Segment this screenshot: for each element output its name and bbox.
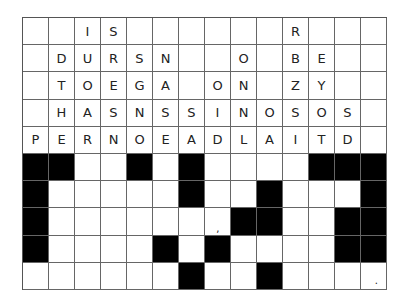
letter-cell	[179, 18, 205, 45]
cell-letter: D	[56, 51, 66, 66]
answer-cell[interactable]	[283, 263, 309, 290]
letter-cell: R	[101, 45, 127, 72]
answer-cell[interactable]	[283, 154, 309, 181]
answer-cell[interactable]	[283, 208, 309, 235]
answer-cell[interactable]	[49, 263, 75, 290]
answer-cell[interactable]	[205, 154, 231, 181]
answer-cell[interactable]	[231, 181, 257, 208]
letter-cell	[205, 45, 231, 72]
letter-cell: B	[283, 45, 309, 72]
cell-letter: D	[342, 132, 352, 147]
answer-cell[interactable]	[75, 236, 101, 263]
answer-cell[interactable]	[205, 181, 231, 208]
answer-cell[interactable]	[127, 236, 153, 263]
cell-letter: A	[265, 132, 274, 147]
letter-cell	[179, 45, 205, 72]
answer-cell[interactable]	[153, 154, 179, 181]
answer-cell[interactable]	[283, 236, 309, 263]
letter-cell: T	[309, 127, 335, 154]
answer-cell[interactable]	[49, 181, 75, 208]
answer-cell[interactable]	[127, 181, 153, 208]
cell-letter: O	[134, 132, 144, 147]
cell-letter: N	[135, 105, 145, 120]
letter-cell	[179, 72, 205, 99]
cell-letter: E	[317, 51, 325, 66]
blocked-cell	[231, 208, 257, 235]
letter-cell: O	[205, 72, 231, 99]
cell-letter: R	[109, 51, 118, 66]
cell-letter: S	[291, 105, 299, 120]
letter-cell: S	[101, 100, 127, 127]
cell-letter: A	[187, 132, 196, 147]
answer-cell[interactable]	[101, 263, 127, 290]
answer-cell[interactable]	[101, 236, 127, 263]
answer-cell[interactable]	[153, 263, 179, 290]
answer-cell[interactable]	[309, 263, 335, 290]
blocked-cell	[179, 154, 205, 181]
answer-cell[interactable]	[309, 181, 335, 208]
answer-cell[interactable]	[257, 154, 283, 181]
cell-letter: R	[291, 24, 300, 39]
answer-cell[interactable]	[309, 236, 335, 263]
answer-cell[interactable]	[283, 181, 309, 208]
cell-letter: S	[109, 105, 117, 120]
cell-letter: O	[316, 105, 326, 120]
cell-letter: S	[187, 105, 195, 120]
answer-cell[interactable]	[49, 208, 75, 235]
letter-cell: S	[153, 100, 179, 127]
answer-cell[interactable]	[101, 208, 127, 235]
letter-cell: O	[231, 45, 257, 72]
answer-cell[interactable]: .	[361, 263, 387, 290]
answer-cell[interactable]	[335, 181, 361, 208]
letter-cell	[23, 45, 49, 72]
letter-cell	[153, 18, 179, 45]
blocked-cell	[23, 236, 49, 263]
answer-cell[interactable]	[309, 208, 335, 235]
cell-letter: G	[134, 78, 144, 93]
answer-cell[interactable]	[49, 236, 75, 263]
period-mark: .	[375, 275, 378, 286]
letter-cell: N	[101, 127, 127, 154]
letter-cell: N	[127, 100, 153, 127]
answer-cell[interactable]	[23, 263, 49, 290]
cell-letter: I	[86, 24, 90, 39]
cell-letter: S	[161, 105, 169, 120]
answer-cell[interactable]	[179, 236, 205, 263]
answer-cell[interactable]	[205, 263, 231, 290]
cell-letter: A	[161, 78, 170, 93]
answer-cell[interactable]	[231, 154, 257, 181]
answer-cell[interactable]	[75, 208, 101, 235]
answer-cell[interactable]	[179, 208, 205, 235]
blocked-cell	[335, 208, 361, 235]
answer-cell[interactable]	[153, 181, 179, 208]
answer-cell[interactable]	[101, 181, 127, 208]
answer-cell[interactable]	[231, 236, 257, 263]
answer-cell[interactable]	[101, 154, 127, 181]
letter-cell: N	[231, 72, 257, 99]
answer-cell[interactable]	[231, 263, 257, 290]
answer-cell[interactable]: ,	[205, 208, 231, 235]
answer-cell[interactable]	[335, 263, 361, 290]
answer-cell[interactable]	[75, 263, 101, 290]
letter-cell: U	[75, 45, 101, 72]
blocked-cell	[179, 181, 205, 208]
letter-cell: O	[127, 127, 153, 154]
letter-cell: Y	[309, 72, 335, 99]
answer-cell[interactable]	[127, 208, 153, 235]
blocked-cell	[335, 154, 361, 181]
letter-cell	[23, 72, 49, 99]
answer-cell[interactable]	[75, 154, 101, 181]
answer-cell[interactable]	[153, 208, 179, 235]
answer-cell[interactable]	[75, 181, 101, 208]
blocked-cell	[361, 154, 387, 181]
letter-cell	[23, 100, 49, 127]
cell-letter: B	[291, 51, 300, 66]
letter-cell: E	[309, 45, 335, 72]
answer-cell[interactable]	[257, 236, 283, 263]
letter-cell: N	[231, 100, 257, 127]
answer-cell[interactable]	[127, 263, 153, 290]
cell-letter: D	[212, 132, 222, 147]
letter-cell: E	[101, 72, 127, 99]
cell-letter: O	[212, 78, 222, 93]
cell-letter: E	[57, 132, 65, 147]
